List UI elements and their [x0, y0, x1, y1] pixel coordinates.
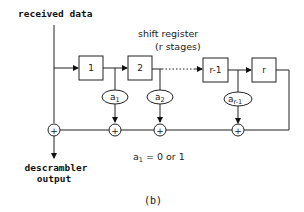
svg-text:+: + — [111, 126, 119, 136]
svg-text:+: + — [156, 126, 164, 136]
register-title: shift register — [138, 28, 198, 39]
stage-box-1: 1 — [79, 56, 103, 80]
stage-box-2: 2 — [128, 56, 152, 80]
svg-text:+: + — [234, 126, 242, 136]
coefficient-a-r-1: ar-1 — [224, 92, 252, 106]
xor-r-1: + — [232, 124, 244, 136]
svg-text:2: 2 — [137, 63, 143, 73]
svg-text:r-1: r-1 — [209, 65, 221, 75]
output-label-2: output — [37, 173, 71, 184]
svg-text:1: 1 — [88, 63, 94, 73]
stage-box-r-1: r-1 — [203, 58, 228, 82]
coefficient-a1: a1 — [102, 90, 128, 104]
descrambler-diagram: received data 1 2 r-1 r shift register (… — [0, 0, 304, 212]
output-label: descrambler — [25, 162, 88, 173]
svg-text:r: r — [262, 65, 266, 75]
figure-caption: (b) — [144, 195, 162, 206]
xor-output: + — [48, 124, 60, 136]
input-label: received data — [18, 8, 93, 19]
coefficient-a2: a2 — [147, 90, 173, 104]
coefficient-note: a1 = 0 or 1 — [133, 151, 185, 164]
stage-box-r: r — [252, 58, 276, 82]
xor-1: + — [109, 124, 121, 136]
svg-text:+: + — [50, 126, 58, 136]
xor-2: + — [154, 124, 166, 136]
register-stages-note: (r stages) — [155, 41, 201, 52]
